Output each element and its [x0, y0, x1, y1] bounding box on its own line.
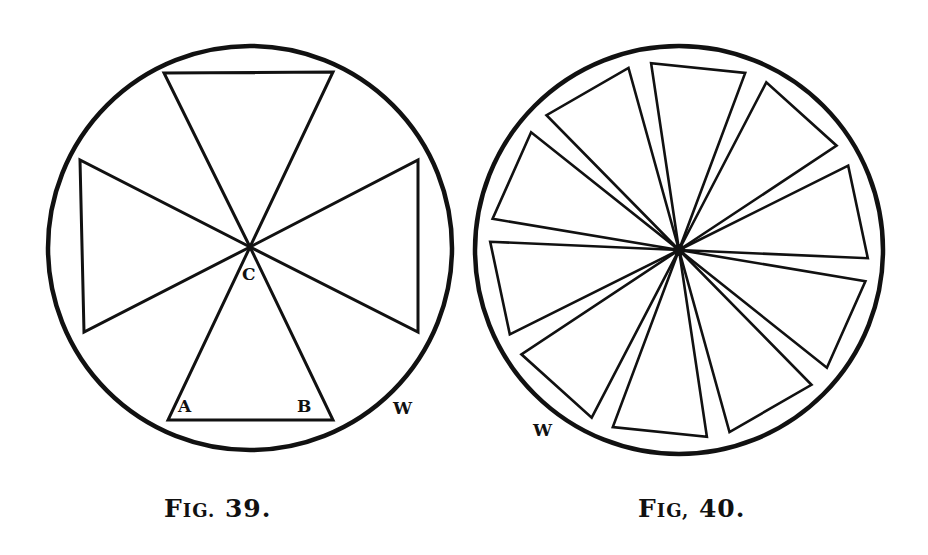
fig39-diagram — [48, 46, 452, 450]
fig40-caption-initial: F — [638, 494, 657, 523]
fig39-corner-label-a: A — [178, 396, 191, 416]
fig40-triangle — [679, 166, 868, 259]
fig40-caption-rest: IG, — [657, 500, 689, 521]
fig39-center-label: C — [242, 264, 256, 284]
fig39-caption-rest: IG. — [183, 500, 215, 521]
fig40-triangle — [679, 82, 837, 250]
fig39-caption-initial: F — [164, 494, 183, 523]
fig39-triangle-right — [250, 160, 418, 332]
fig39-triangle-top — [164, 72, 333, 247]
fig40-triangle — [490, 242, 679, 334]
fig39-corner-label-b: B — [297, 396, 311, 416]
fig40-triangle — [613, 250, 707, 437]
fig39-caption: FIG. 39. — [164, 494, 271, 523]
fig40-rim-label: W — [533, 420, 552, 440]
figure-canvas — [0, 0, 928, 555]
fig40-center-point — [673, 244, 685, 256]
fig39-rim-label: W — [393, 398, 412, 418]
fig40-triangle — [521, 250, 679, 418]
fig39-caption-number: 39. — [225, 494, 272, 523]
fig40-caption: FIG, 40. — [638, 494, 745, 523]
fig40-diagram — [475, 46, 883, 454]
fig40-caption-number: 40. — [699, 494, 746, 523]
fig40-triangle — [651, 63, 745, 250]
fig39-triangle-left — [80, 160, 250, 332]
